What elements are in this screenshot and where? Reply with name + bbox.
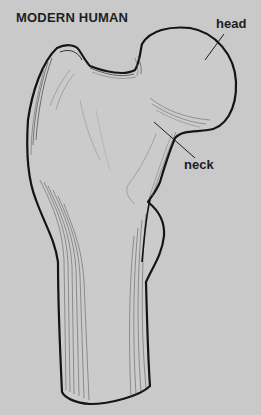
- femur-drawing: [0, 0, 261, 415]
- label-head: head: [216, 16, 246, 31]
- figure-title: MODERN HUMAN: [16, 10, 128, 25]
- label-neck: neck: [184, 157, 214, 172]
- femur-illustration: MODERN HUMAN head neck: [0, 0, 261, 415]
